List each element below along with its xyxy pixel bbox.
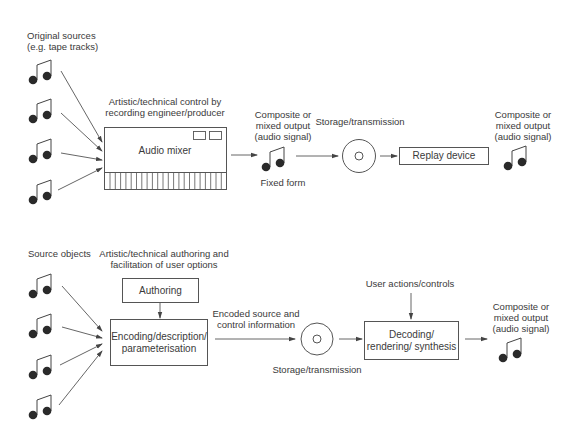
original-sources-label: Original sources (e.g. tape tracks) [27,30,98,52]
disc-icon [343,140,376,173]
note-icon [29,60,52,84]
note-icon [29,395,52,419]
composite-output-label: Composite or mixed output (audio signal) [494,109,551,142]
note-icon [29,99,52,123]
source-objects-label: Source objects [28,248,91,259]
note-icon [29,314,52,338]
note-icon [29,180,52,204]
disc-icon [301,323,333,355]
replay-device-label: Replay device [399,147,489,165]
note-icon [504,146,527,170]
note-icon [29,139,52,163]
note-icon [29,274,52,298]
bottom-source-notes [29,274,52,419]
user-actions-label: User actions/controls [366,278,455,289]
note-icon [499,338,522,362]
storage-transmission-label: Storage/transmission [315,116,404,127]
note-icon [262,147,285,171]
control-caption: Artistic/technical control by recording … [105,96,224,118]
fixed-form-label: Fixed form [261,177,306,188]
top-source-notes [29,60,52,204]
diagram-graphics [0,0,575,444]
note-icon [29,355,52,379]
composite-output-label: Composite or mixed output (audio signal) [492,301,549,334]
authoring-label: Authoring [122,278,199,303]
encoding-label: Encoding/description/ parameterisation [110,319,208,366]
bottom-source-arrows [59,286,102,405]
storage-transmission-label: Storage/transmission [272,364,361,375]
authoring-caption: Artistic/technical authoring and facilit… [99,248,228,270]
audio-mixer-label: Audio mixer [104,133,226,169]
decoding-label: Decoding/ rendering/ synthesis [364,321,459,360]
composite-output-label: Composite or mixed output (audio signal) [254,109,311,142]
top-source-arrows [58,71,102,190]
diagram-canvas: Original sources (e.g. tape tracks) Arti… [0,0,575,444]
encoded-source-label: Encoded source and control information [212,308,299,330]
